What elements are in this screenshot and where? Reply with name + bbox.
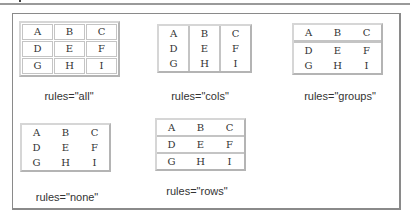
table-cell: E	[323, 42, 352, 58]
table-row: G H I	[22, 155, 109, 170]
table-cell: C	[352, 25, 381, 42]
table-cell: E	[54, 41, 85, 57]
caption-rules-none: rules="none"	[36, 191, 99, 203]
table-cell: E	[189, 41, 220, 56]
table-row: A B C	[22, 125, 109, 140]
table-cell: G	[22, 155, 51, 170]
table-row: D E F	[159, 41, 250, 56]
example-rules-all: A B C D E F G H I	[19, 21, 120, 77]
table-cell: G	[22, 58, 53, 74]
table-row: A B C	[157, 120, 244, 136]
table-cell: D	[157, 136, 186, 153]
table-cell: A	[159, 26, 189, 41]
table-cell: C	[86, 24, 117, 40]
table-row: G H I	[159, 56, 250, 71]
example-rules-groups: A B C D E F G H I	[292, 23, 383, 75]
table-cell: G	[294, 58, 323, 73]
table-rules-all: A B C D E F G H I	[19, 21, 120, 77]
table-cell: E	[186, 136, 215, 153]
table-cell: I	[86, 58, 117, 74]
table-cell: B	[54, 24, 85, 40]
example-rules-rows: A B C D E F G H I	[155, 118, 246, 171]
table-row: G H I	[22, 58, 117, 74]
example-rules-cols: A B C D E F G H I	[157, 24, 252, 73]
top-mark	[19, 0, 21, 2]
table-row: D E F	[294, 42, 381, 58]
table-cell: F	[215, 136, 244, 153]
table-cell: I	[352, 58, 381, 73]
table-rules-cols: A B C D E F G H I	[157, 24, 252, 73]
table-cell: I	[80, 155, 109, 170]
caption-rules-groups: rules="groups"	[304, 90, 376, 102]
table-cell: H	[51, 155, 80, 170]
example-rules-none: A B C D E F G H I	[20, 123, 111, 172]
table-row: A B C	[159, 26, 250, 41]
table-cell: I	[220, 56, 250, 71]
table-cell: D	[22, 41, 53, 57]
table-cell: D	[159, 41, 189, 56]
table-cell: H	[189, 56, 220, 71]
table-cell: B	[189, 26, 220, 41]
caption-rules-rows: rules="rows"	[166, 185, 227, 197]
table-cell: G	[159, 56, 189, 71]
table-row: A B C	[22, 24, 117, 40]
caption-rules-all: rules="all"	[44, 90, 93, 102]
table-cell: D	[294, 42, 323, 58]
table-rules-rows: A B C D E F G H I	[155, 118, 246, 171]
table-cell: A	[22, 24, 53, 40]
table-cell: C	[220, 26, 250, 41]
table-rules-none: A B C D E F G H I	[20, 123, 111, 172]
table-cell: E	[51, 140, 80, 155]
table-row: G H I	[294, 58, 381, 73]
table-cell: C	[215, 120, 244, 136]
table-cell: H	[323, 58, 352, 73]
table-cell: A	[22, 125, 51, 140]
table-cell: H	[54, 58, 85, 74]
table-cell: B	[186, 120, 215, 136]
table-cell: A	[294, 25, 323, 42]
table-cell: I	[215, 153, 244, 169]
table-row: G H I	[157, 153, 244, 169]
table-cell: H	[186, 153, 215, 169]
table-rules-groups: A B C D E F G H I	[292, 23, 383, 75]
table-row: D E F	[157, 136, 244, 153]
table-cell: F	[352, 42, 381, 58]
table-cell: B	[51, 125, 80, 140]
table-cell: A	[157, 120, 186, 136]
table-cell: D	[22, 140, 51, 155]
top-divider-line	[0, 3, 410, 5]
table-cell: G	[157, 153, 186, 169]
table-row: D E F	[22, 140, 109, 155]
table-cell: F	[86, 41, 117, 57]
caption-rules-cols: rules="cols"	[171, 90, 229, 102]
table-cell: F	[80, 140, 109, 155]
table-row: A B C	[294, 25, 381, 42]
table-row: D E F	[22, 41, 117, 57]
table-cell: F	[220, 41, 250, 56]
table-cell: C	[80, 125, 109, 140]
table-cell: B	[323, 25, 352, 42]
